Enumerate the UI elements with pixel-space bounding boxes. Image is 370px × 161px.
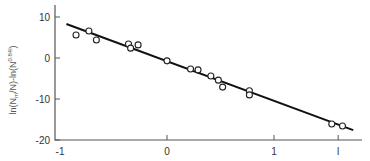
axes	[55, 5, 362, 141]
data-point	[339, 123, 345, 129]
data-point	[208, 73, 214, 79]
scatter-chart: 100-10-20-101l ln(Nm/N)-ln(N0.84l)	[0, 0, 370, 161]
data-point	[86, 28, 92, 34]
data-point	[73, 32, 79, 38]
tick-labels: 100-10-20-101l	[36, 12, 340, 158]
x-tick-label: 1	[271, 146, 277, 157]
x-tick-label: -1	[56, 146, 65, 157]
data-point	[215, 77, 221, 83]
data-points	[73, 28, 345, 129]
data-point	[128, 45, 134, 51]
y-axis-label: ln(Nm/N)-ln(N0.84l)	[7, 45, 19, 114]
y-tick-label: 10	[39, 12, 51, 23]
y-tick-label: -10	[36, 94, 51, 105]
data-point	[93, 37, 99, 43]
data-point	[164, 58, 170, 64]
data-point	[195, 67, 201, 73]
y-tick-label: -20	[36, 135, 51, 146]
y-tick-label: 0	[44, 53, 50, 64]
data-point	[329, 121, 335, 127]
data-point	[188, 66, 194, 72]
data-point	[220, 84, 226, 90]
x-tick-label: 0	[164, 146, 170, 157]
x-tick-label: l	[337, 146, 339, 157]
data-point	[135, 42, 141, 48]
data-point	[246, 92, 252, 98]
